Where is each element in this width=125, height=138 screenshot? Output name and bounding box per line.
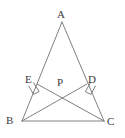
side-AC <box>62 22 104 121</box>
vertex-label-a: A <box>57 9 65 20</box>
point-label-p: P <box>57 77 63 88</box>
geometry-figure: A B C D E P <box>0 0 125 138</box>
vertex-label-c: C <box>107 116 114 127</box>
vertex-label-d: D <box>88 74 96 85</box>
altitude-BD <box>22 84 87 121</box>
vertex-label-e: E <box>25 74 32 85</box>
side-AB <box>22 22 62 121</box>
vertex-label-b: B <box>6 115 13 126</box>
